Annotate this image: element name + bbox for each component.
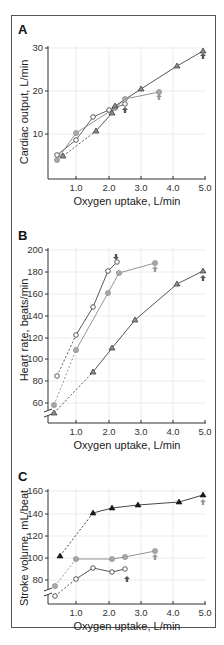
xtick-a-3: 3.0 [134,182,147,193]
arrow-up-icon [156,94,162,100]
xtick-b-4: 4.0 [166,426,179,437]
markers-a-triangles [60,48,206,158]
xtick-a-5: 5.0 [198,182,211,193]
ytick-c-80: 80 [32,574,43,585]
panel-letter-b: B [18,228,27,243]
ytick-a-10: 10 [32,128,43,139]
ticks-a [45,48,205,179]
ytick-b-180: 180 [27,266,43,277]
series-c-open-line [76,568,125,579]
panel-letter-a: A [18,22,28,37]
arrow-up-icon [152,554,158,560]
xtick-b-3: 3.0 [134,426,147,437]
ticks-c [45,491,205,604]
series-c-tri-dashed [60,513,93,556]
markers-c-triangles [57,492,206,558]
ylabel-a: Cardiac output, L/min [18,60,30,165]
grid-b [48,248,206,423]
xtick-c-3: 3.0 [134,607,147,618]
panel-a: A 30 20 10 1.0 2.0 3.0 4.0 5.0 Oxygen up… [18,22,212,207]
axis-break-b [44,409,52,417]
axes-a [48,46,206,179]
grid-a [48,46,206,179]
xtick-c-1: 1.0 [69,607,82,618]
xlabel-b: Oxygen uptake, L/min [73,439,180,451]
arrow-up-icon [124,576,130,582]
arrow-down-icon [113,254,119,260]
xlabel-a: Oxygen uptake, L/min [73,195,180,207]
ylabel-c: Stroke volume, mL/beat [18,490,30,606]
markers-b-triangles [51,268,206,415]
panel-letter-c: C [18,469,28,484]
axes-b [48,248,206,423]
series-a-gray-circles-line [57,92,159,160]
xtick-b-5: 5.0 [198,426,211,437]
ytick-b-200: 200 [27,244,43,255]
markers-b-gray-circles [51,260,157,407]
xtick-b-1: 1.0 [69,426,82,437]
arrow-up-icon [152,266,158,272]
series-b-open-dashed [57,335,76,376]
arrow-up-icon [200,499,206,505]
ytick-b-60: 60 [32,397,43,408]
max-arrows-a [122,53,206,113]
series-b-tri-line [93,271,203,372]
series-b-gray-line [76,263,155,350]
panel-c: C 160 140 120 100 80 1.0 2.0 3.0 4.0 5.0… [18,469,212,632]
xtick-b-2: 2.0 [102,426,115,437]
arrow-up-icon [200,275,206,281]
arrow-up-icon [200,53,206,59]
xtick-a-1: 1.0 [69,182,82,193]
max-arrows-c [124,499,206,582]
xtick-a-4: 4.0 [166,182,179,193]
series-c-gray-dashed [55,559,76,586]
xtick-c-5: 5.0 [198,607,211,618]
panel-b: B 200 180 160 140 120 100 80 60 1.0 2.0 … [18,228,212,451]
figure-canvas: A 30 20 10 1.0 2.0 3.0 4.0 5.0 Oxygen up… [0,0,224,645]
series-a-open-circles-line [57,104,125,155]
xtick-a-2: 2.0 [102,182,115,193]
xtick-c-4: 4.0 [166,607,179,618]
xlabel-c: Oxygen uptake, L/min [73,620,180,632]
series-b-open-line [76,262,117,335]
ytick-b-80: 80 [32,375,43,386]
arrow-up-icon [122,107,128,113]
ylabel-b: Heart rate, beats/min [18,279,30,382]
series-b-tri-dashed [54,372,93,413]
xtick-c-2: 2.0 [102,607,115,618]
ytick-a-20: 20 [32,85,43,96]
ytick-a-30: 30 [32,42,43,53]
markers-a-gray-circles [54,89,161,162]
axis-break-c [44,588,52,596]
